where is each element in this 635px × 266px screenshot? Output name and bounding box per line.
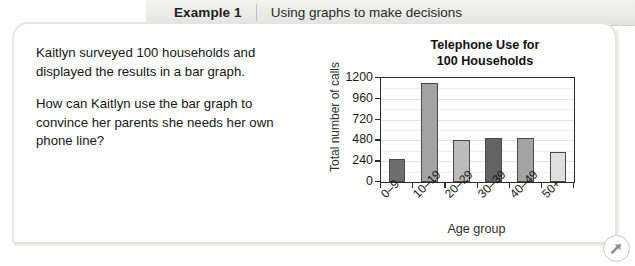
y-tick-mark [375, 98, 380, 99]
y-tick-mark [375, 119, 380, 120]
example-panel: Example 1 Using graphs to make decisions… [0, 0, 635, 266]
bar-10–19 [421, 83, 438, 182]
y-tick-mark [375, 160, 380, 161]
gridline [381, 99, 574, 100]
chart-title-line-1: Telephone Use for [378, 38, 592, 54]
example-prose: Kaitlyn surveyed 100 households and disp… [36, 44, 306, 151]
chart-title-line-2: 100 Households [378, 54, 592, 70]
header-divider [256, 4, 257, 21]
arrow-up-right-icon [609, 241, 624, 256]
gridline-minor [381, 151, 574, 152]
y-tick-label: 240 [352, 153, 373, 167]
example-title-text: Using graphs to make decisions [271, 5, 462, 20]
prose-paragraph-1: Kaitlyn surveyed 100 households and disp… [36, 44, 306, 81]
gridline-minor [381, 88, 574, 89]
chart-title: Telephone Use for 100 Households [378, 38, 592, 69]
bar-chart: Telephone Use for 100 Households Total n… [322, 38, 592, 238]
y-tick-label: 480 [352, 132, 373, 146]
y-tick-mark [375, 139, 380, 140]
example-number-label: Example 1 [174, 5, 242, 20]
y-tick-label: 960 [352, 91, 373, 105]
y-tick-label: 1200 [345, 70, 373, 84]
prose-paragraph-2: How can Kaitlyn use the bar graph to con… [36, 95, 306, 151]
gridline [381, 140, 574, 141]
plot-area [380, 77, 575, 183]
y-tick-label: 720 [352, 112, 373, 126]
gridline-minor [381, 172, 574, 173]
x-axis-title: Age group [380, 222, 573, 236]
arrow-up-right-badge[interactable] [603, 235, 630, 262]
gridline-minor [381, 109, 574, 110]
gridline [381, 161, 574, 162]
x-tick-mark [573, 183, 574, 188]
y-tick-label: 0 [366, 174, 373, 188]
y-axis-title: Total number of calls [328, 47, 342, 187]
gridline [381, 120, 574, 121]
gridline-minor [381, 130, 574, 131]
y-tick-mark [375, 77, 380, 78]
